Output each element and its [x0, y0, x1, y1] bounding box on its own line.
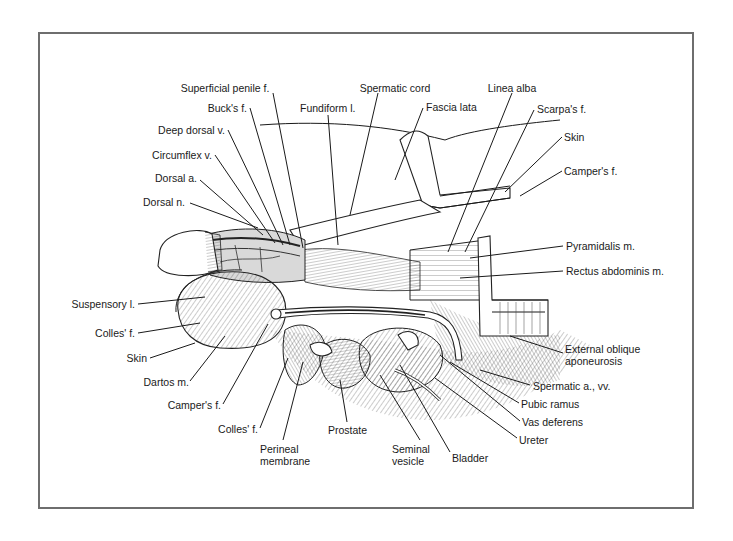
label-campers-f-left: Camper's f. [168, 399, 221, 411]
label-external-oblique-line1: External oblique [565, 343, 640, 355]
label-circumflex-v: Circumflex v. [152, 149, 212, 161]
label-prostate: Prostate [328, 424, 367, 436]
label-seminal-vesicle-line1: Seminal [392, 443, 430, 455]
anatomy-illustration: Superficial penile f. Spermatic cord Lin… [0, 0, 733, 541]
label-bladder: Bladder [452, 452, 489, 464]
label-deep-dorsal-v: Deep dorsal v. [158, 124, 225, 136]
label-spermatic-cord: Spermatic cord [360, 82, 431, 94]
label-ureter: Ureter [519, 434, 549, 446]
anatomy-drawing [158, 120, 590, 420]
label-skin-right: Skin [564, 131, 585, 143]
label-dartos-m: Dartos m. [143, 376, 189, 388]
label-campers-f-right: Camper's f. [564, 165, 617, 177]
label-fascia-lata: Fascia lata [426, 101, 477, 113]
label-linea-alba: Linea alba [488, 82, 537, 94]
fascia-contour-right [445, 120, 560, 140]
label-seminal-vesicle-line2: vesicle [392, 455, 424, 467]
label-suspensory-l: Suspensory l. [71, 298, 135, 310]
label-vas-deferens: Vas deferens [522, 416, 583, 428]
label-perineal-membrane-line1: Perineal [260, 443, 299, 455]
label-perineal-membrane-line2: membrane [260, 455, 310, 467]
label-skin-left: Skin [127, 352, 148, 364]
fundiform-fan [300, 249, 420, 291]
label-dorsal-n: Dorsal n. [143, 196, 185, 208]
cord-cut-end [271, 309, 281, 319]
label-spermatic-a-vv: Spermatic a., vv. [533, 380, 610, 392]
label-pyramidalis-m: Pyramidalis m. [566, 240, 635, 252]
label-bucks-f: Buck's f. [208, 102, 247, 114]
label-colles-f-lower: Colles' f. [218, 423, 258, 435]
spermatic-cord-shape [290, 200, 440, 246]
label-superficial-penile-f: Superficial penile f. [181, 82, 270, 94]
label-rectus-abdominis-m: Rectus abdominis m. [566, 265, 664, 277]
label-scarpas-f: Scarpa's f. [537, 103, 586, 115]
rectus-abdominis-shape [410, 240, 485, 300]
corona-shape [205, 232, 222, 272]
label-fundiform-l: Fundiform l. [300, 102, 355, 114]
label-pubic-ramus: Pubic ramus [521, 398, 579, 410]
label-external-oblique-line2: aponeurosis [565, 355, 622, 367]
label-dorsal-a: Dorsal a. [155, 172, 197, 184]
skin-fold [400, 131, 510, 208]
label-colles-f-left: Colles' f. [95, 327, 135, 339]
external-oblique-sheet [478, 236, 548, 336]
scrotum-shape [178, 272, 286, 349]
